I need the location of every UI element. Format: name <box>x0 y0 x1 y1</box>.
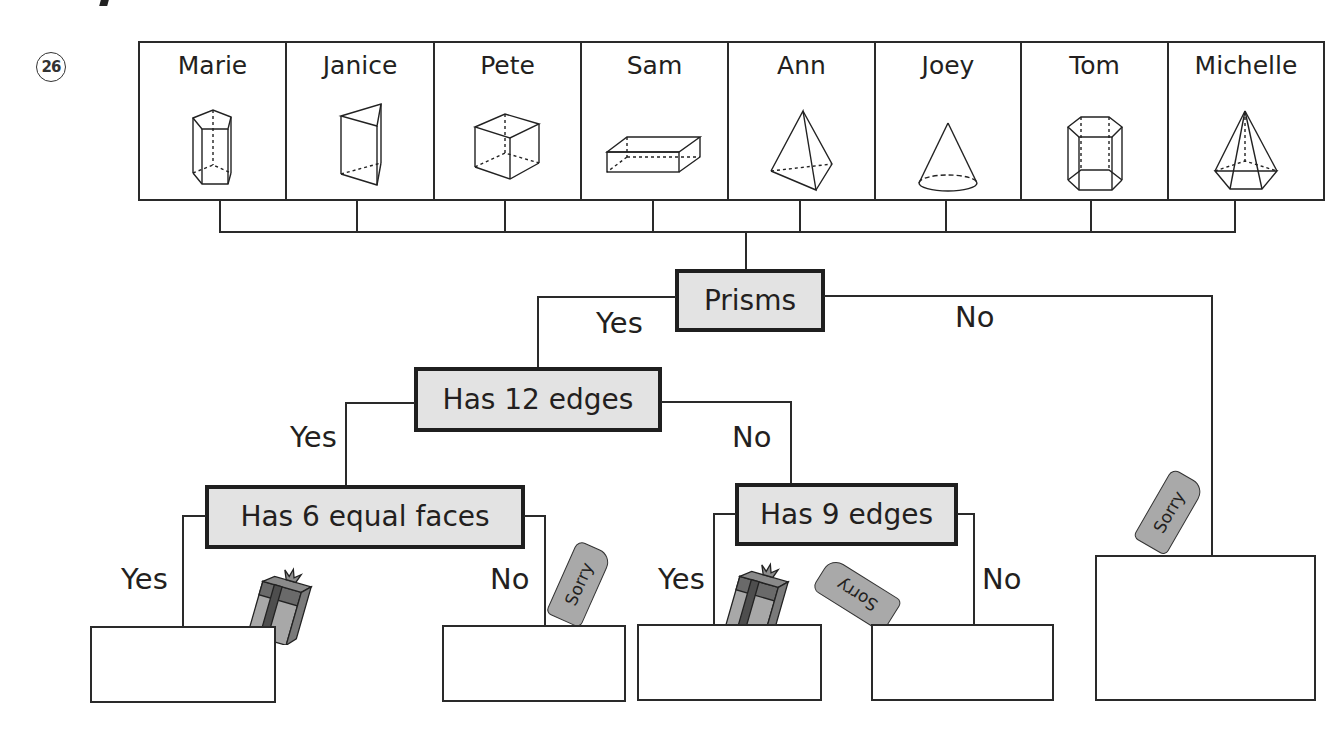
pentagonal-pyramid-icon <box>1213 109 1279 193</box>
person-cell-joey: Joey <box>874 41 1022 201</box>
bus-line <box>219 231 1236 233</box>
connector-line <box>345 402 347 486</box>
person-cell-janice: Janice <box>285 41 435 201</box>
sorry-tag-label: Sorry <box>1149 488 1189 537</box>
hexagonal-prism-icon <box>1066 115 1124 195</box>
branch-label-yes: Yes <box>121 562 168 596</box>
question-number: 26 <box>36 52 66 82</box>
connector-line <box>182 515 206 517</box>
connector-line <box>504 201 506 233</box>
branch-label-no: No <box>732 420 771 454</box>
cube-icon <box>472 111 544 183</box>
connector-line <box>544 515 546 626</box>
person-name: Ann <box>729 51 874 80</box>
connector-line <box>537 296 539 368</box>
person-cell-ann: Ann <box>727 41 876 201</box>
connector-line <box>790 401 792 486</box>
answer-box-9-edges[interactable] <box>637 624 822 701</box>
decision-node-has-12-edges: Has 12 edges <box>414 367 662 432</box>
connector-line <box>799 201 801 233</box>
triangular-prism-icon <box>335 101 385 193</box>
connector-line <box>713 513 715 625</box>
sorry-tag: Sorry <box>811 557 902 634</box>
person-cell-michelle: Michelle <box>1167 41 1325 201</box>
connector-line <box>652 201 654 233</box>
person-cell-sam: Sam <box>580 41 729 201</box>
sorry-tag-label: Sorry <box>561 559 598 608</box>
rectangular-prism-icon <box>605 135 705 177</box>
branch-label-yes: Yes <box>596 306 643 340</box>
connector-line <box>1211 295 1213 556</box>
branch-label-yes: Yes <box>658 562 705 596</box>
connector-line <box>945 201 947 233</box>
connector-line <box>824 295 1213 297</box>
decision-node-has-6-equal-faces: Has 6 equal faces <box>205 485 525 549</box>
branch-label-no: No <box>982 562 1021 596</box>
connector-line <box>356 201 358 233</box>
connector-line <box>973 513 975 625</box>
person-name: Marie <box>140 51 285 80</box>
person-cell-tom: Tom <box>1020 41 1169 201</box>
connector-line <box>661 401 792 403</box>
person-name: Tom <box>1022 51 1167 80</box>
branch-label-no: No <box>490 562 529 596</box>
sorry-tag-label: Sorry <box>833 575 882 616</box>
sorry-tag: Sorry <box>1133 468 1206 556</box>
person-name: Janice <box>287 51 433 80</box>
branch-label-no: No <box>955 300 994 334</box>
person-name: Pete <box>435 51 580 80</box>
decision-node-has-9-edges: Has 9 edges <box>735 483 958 546</box>
connector-line <box>537 296 676 298</box>
branch-label-yes: Yes <box>290 420 337 454</box>
connector-line <box>745 231 747 271</box>
connector-line <box>182 515 184 627</box>
person-name: Joey <box>876 51 1020 80</box>
person-name: Michelle <box>1169 51 1323 80</box>
answer-box-not-prisms[interactable] <box>1095 555 1316 701</box>
connector-line <box>1090 201 1092 233</box>
sorry-tag: Sorry <box>545 540 612 629</box>
person-cell-marie: Marie <box>138 41 287 201</box>
triangular-pyramid-icon <box>769 109 835 193</box>
connector-line <box>524 515 546 517</box>
answer-box-cube[interactable] <box>90 626 276 703</box>
page-fragment-mark <box>99 0 109 6</box>
person-name: Sam <box>582 51 727 80</box>
pentagonal-prism-icon <box>183 103 243 195</box>
person-cell-pete: Pete <box>433 41 582 201</box>
answer-box-not-6-equal-faces[interactable] <box>442 625 626 702</box>
decision-node-prisms: Prisms <box>675 269 825 332</box>
answer-box-not-9-edges[interactable] <box>871 624 1054 701</box>
cone-icon <box>917 121 979 193</box>
connector-line <box>219 201 221 233</box>
connector-line <box>713 513 736 515</box>
connector-line <box>1234 201 1236 233</box>
connector-line <box>345 402 415 404</box>
